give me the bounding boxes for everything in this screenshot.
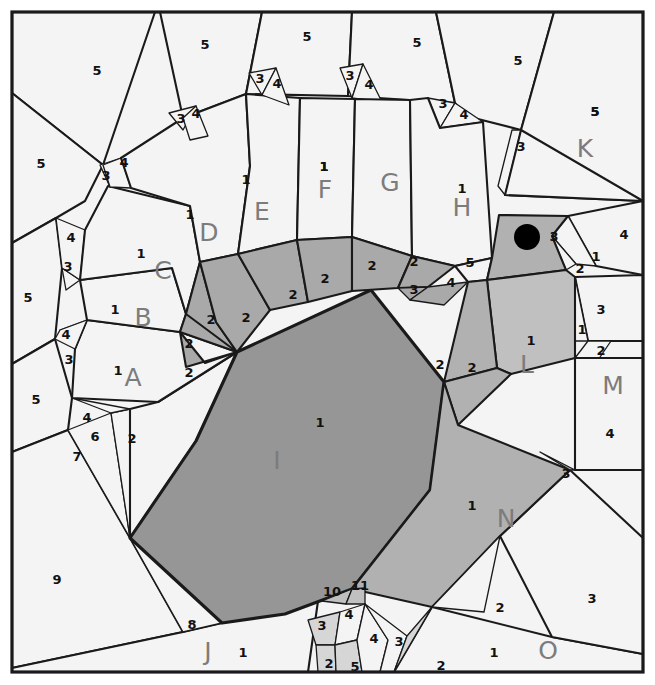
cell-number-label: 4 — [272, 76, 281, 91]
cell-number-label: 3 — [549, 229, 558, 244]
cell-number-label: 5 — [465, 255, 474, 270]
cell-number-label: 5 — [200, 37, 209, 52]
cell-number-label: 5 — [412, 35, 421, 50]
region-letter-k: K — [577, 134, 594, 163]
cell-number-label: 5 — [590, 104, 599, 119]
region-letter-g: G — [380, 168, 399, 197]
cell-number-label: 4 — [191, 106, 200, 121]
cell-number-label: 4 — [119, 155, 128, 170]
region-letter-i: I — [273, 446, 280, 475]
cell-number-label: 1 — [489, 645, 498, 660]
cell-number-label: 1 — [526, 333, 535, 348]
cell-number-label: 4 — [82, 410, 91, 425]
cell-number-label: 2 — [184, 336, 193, 351]
cell-number-label: 2 — [184, 365, 193, 380]
region-letter-e: E — [254, 197, 270, 226]
cell-number-label: 3 — [596, 302, 605, 317]
region-letter-o: O — [538, 636, 558, 665]
ring-2f — [297, 237, 352, 302]
cell-number-label: 4 — [605, 426, 614, 441]
cell-number-label: 11 — [351, 578, 369, 593]
cell-number-label: 1 — [591, 249, 600, 264]
cell-number-label: 3 — [587, 591, 596, 606]
region-letter-a: A — [124, 363, 141, 392]
cell-number-label: 1 — [113, 363, 122, 378]
region-letter-f: F — [318, 175, 332, 204]
cell-number-label: 2 — [288, 287, 297, 302]
cell-number-label: 1 — [185, 207, 194, 222]
cell-number-label: 1 — [315, 415, 324, 430]
region-letter-j: J — [202, 637, 211, 666]
region-letter-c: C — [154, 256, 171, 285]
cell-number-label: 5 — [513, 53, 522, 68]
cell-number-label: 8 — [187, 617, 196, 632]
cell-number-label: 5 — [302, 29, 311, 44]
cell-number-label: 2 — [367, 258, 376, 273]
cell-number-label: 1 — [241, 172, 250, 187]
cell-number-label: 1 — [136, 246, 145, 261]
cell-number-label: 3 — [255, 71, 264, 86]
cell-number-label: 4 — [446, 275, 455, 290]
cell-number-label: 1 — [467, 498, 476, 513]
cell-number-label: 3 — [345, 68, 354, 83]
cell-number-label: 4 — [364, 77, 373, 92]
cell-number-label: 2 — [320, 271, 329, 286]
cell-number-label: 2 — [575, 261, 584, 276]
cell-number-label: 2 — [241, 310, 250, 325]
cell-number-label: 5 — [92, 63, 101, 78]
region-letter-n: N — [497, 504, 516, 533]
cell-number-label: 4 — [619, 227, 628, 242]
cell-number-label: 2 — [435, 357, 444, 372]
cell-number-label: 2 — [127, 431, 136, 446]
cell-number-label: 3 — [176, 111, 185, 126]
region-letter-h: H — [453, 193, 472, 222]
cell-number-label: 6 — [90, 429, 99, 444]
cell-number-label: 1 — [577, 322, 586, 337]
cell-number-label: 4 — [369, 631, 378, 646]
cell-number-label: 4 — [66, 230, 75, 245]
cell-number-label: 2 — [436, 658, 445, 673]
cell-number-label: 3 — [516, 139, 525, 154]
cell-number-label: 3 — [409, 282, 418, 297]
cell-number-label: 3 — [63, 259, 72, 274]
cell-number-label: 7 — [72, 449, 81, 464]
diagram-canvas: 5555555559187642134134134134134134134135… — [0, 0, 655, 685]
cell-layer — [12, 12, 643, 672]
cell-number-label: 4 — [459, 107, 468, 122]
cell-number-label: 3 — [394, 634, 403, 649]
region-letter-l: L — [520, 350, 534, 379]
cell-number-label: 4 — [61, 327, 70, 342]
cell-number-label: 2 — [324, 656, 333, 671]
cell-number-label: 3 — [64, 352, 73, 367]
cell-number-label: 2 — [467, 360, 476, 375]
cell-number-label: 1 — [238, 645, 247, 660]
cell-number-label: 5 — [23, 290, 32, 305]
cell-number-label: 5 — [36, 156, 45, 171]
cell-number-label: 3 — [101, 168, 110, 183]
cell-number-label: 3 — [317, 618, 326, 633]
cell-number-label: 2 — [596, 343, 605, 358]
black-dot-marker — [514, 224, 540, 250]
cell-number-label: 10 — [323, 584, 341, 599]
cell-number-label: 3 — [438, 96, 447, 111]
polygon-partition-svg: 5555555559187642134134134134134134134135… — [0, 0, 655, 685]
cell-number-label: 2 — [206, 312, 215, 327]
region-letter-d: D — [199, 218, 218, 247]
cell-number-label: 4 — [344, 607, 353, 622]
region-letter-m: M — [602, 371, 624, 400]
cell-number-label: 2 — [495, 600, 504, 615]
cell-number-label: 1 — [110, 302, 119, 317]
cell-number-label: 5 — [31, 392, 40, 407]
cell-number-label: 9 — [52, 572, 61, 587]
region-letter-b: B — [134, 303, 151, 332]
cell-number-label: 1 — [319, 159, 328, 174]
cell-number-label: 3 — [561, 466, 570, 481]
cell-number-label: 2 — [409, 254, 418, 269]
